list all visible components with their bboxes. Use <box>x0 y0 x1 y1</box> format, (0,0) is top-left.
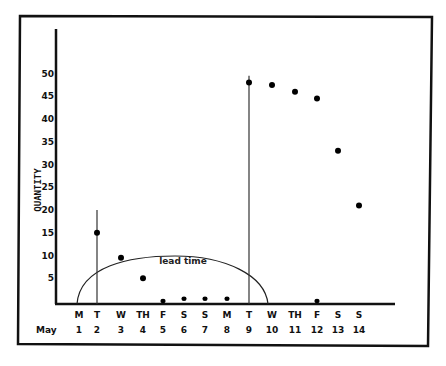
x-date-label: 11 <box>289 325 302 335</box>
x-day-label: S <box>181 310 187 320</box>
y-tick-label: 5 <box>48 273 54 283</box>
y-tick-label: 15 <box>41 228 54 238</box>
x-date-label: 14 <box>353 325 366 335</box>
data-point <box>292 89 298 95</box>
x-day-labels: MTWTHFSSMTWTHFSS <box>75 310 363 320</box>
data-point <box>140 275 146 281</box>
data-point <box>335 148 341 154</box>
data-point <box>118 255 124 261</box>
data-point <box>269 82 275 88</box>
lead-time-label: lead time <box>159 256 207 266</box>
data-points <box>94 80 362 304</box>
y-tick-label: 20 <box>41 205 54 215</box>
y-tick-labels: 5101520253035404550 <box>41 69 54 284</box>
y-tick-label: 30 <box>41 160 54 170</box>
data-point <box>314 96 320 102</box>
chart-frame <box>18 16 432 346</box>
y-tick-label: 35 <box>41 137 54 147</box>
x-date-label: 5 <box>160 325 166 335</box>
data-point <box>202 297 207 301</box>
x-date-label: 10 <box>266 325 279 335</box>
data-point <box>181 297 186 301</box>
x-day-label: F <box>314 310 320 320</box>
y-tick-label: 50 <box>41 69 54 79</box>
x-date-label: 9 <box>246 325 252 335</box>
order-lines <box>97 76 249 304</box>
x-day-label: TH <box>136 310 150 320</box>
data-point <box>160 299 165 303</box>
x-date-label: 3 <box>118 325 124 335</box>
month-label: May <box>36 325 57 335</box>
x-date-label: 4 <box>140 325 146 335</box>
x-date-label: 6 <box>181 325 187 335</box>
x-day-label: W <box>116 310 126 320</box>
x-day-label: S <box>335 310 341 320</box>
x-date-label: 13 <box>332 325 345 335</box>
x-day-label: M <box>223 310 232 320</box>
y-tick-label: 45 <box>41 91 54 101</box>
x-date-label: 7 <box>202 325 208 335</box>
data-point <box>224 297 229 301</box>
x-date-label: 12 <box>311 325 324 335</box>
x-day-label: M <box>75 310 84 320</box>
data-point <box>94 230 100 236</box>
x-date-labels: 1234567891011121314 <box>76 325 365 335</box>
x-date-label: 2 <box>94 325 100 335</box>
y-tick-label: 40 <box>41 114 54 124</box>
y-tick-label: 25 <box>41 182 54 192</box>
data-point <box>314 299 319 303</box>
x-day-label: TH <box>288 310 302 320</box>
x-day-label: T <box>94 310 101 320</box>
x-date-label: 1 <box>76 325 82 335</box>
y-tick-label: 10 <box>41 251 54 261</box>
x-day-label: S <box>356 310 362 320</box>
data-point <box>246 80 252 86</box>
x-day-label: F <box>160 310 166 320</box>
lead-time-chart: QUANTITY 5101520253035404550 MTWTHFSSMTW… <box>0 0 446 366</box>
x-day-label: W <box>267 310 277 320</box>
data-point <box>356 202 362 208</box>
x-day-label: S <box>202 310 208 320</box>
x-day-label: T <box>246 310 253 320</box>
x-date-label: 8 <box>224 325 230 335</box>
